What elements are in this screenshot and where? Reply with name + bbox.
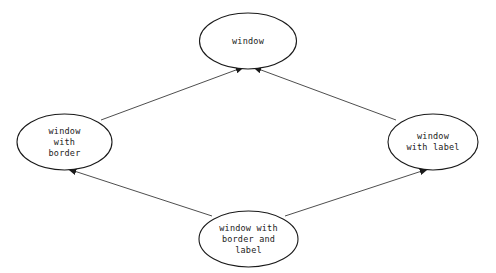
edge-border-and-label-to-label — [285, 169, 428, 216]
edge-border-and-label-to-border — [68, 169, 212, 216]
edge-label-to-window — [253, 67, 396, 120]
graph-canvas: window window with border window with la… — [0, 0, 496, 273]
node-window[interactable] — [200, 13, 297, 69]
node-window-with-border-and-label[interactable] — [199, 211, 298, 267]
nodes-layer — [17, 13, 478, 267]
node-window-with-border[interactable] — [17, 114, 112, 170]
graph-svg — [0, 0, 496, 273]
node-window-with-label[interactable] — [388, 114, 478, 170]
edges-layer — [68, 67, 428, 216]
edge-border-to-window — [101, 67, 244, 120]
